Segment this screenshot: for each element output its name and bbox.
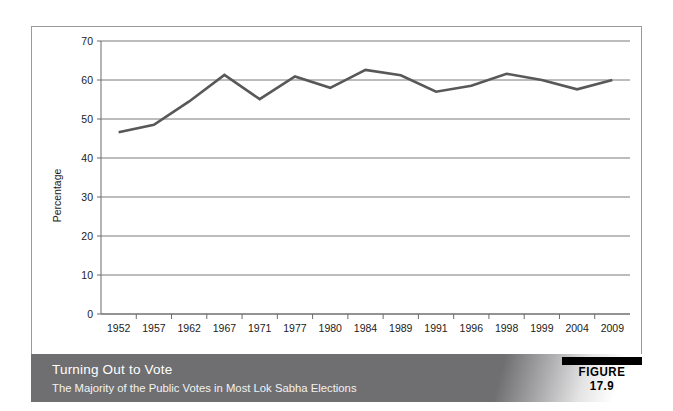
y-axis-tick-labels: 010203040506070 — [81, 35, 93, 320]
y-tick-label: 40 — [81, 152, 93, 164]
caption-band: Turning Out to Vote The Majority of the … — [31, 354, 642, 402]
x-tick-label: 1984 — [354, 322, 378, 334]
x-tick-label: 1957 — [142, 322, 166, 334]
turnout-series-line — [119, 70, 613, 132]
figure-number-badge: FIGURE 17.9 — [562, 357, 642, 383]
y-axis-ticks-group — [97, 41, 101, 314]
x-axis-ticks-group — [136, 314, 594, 319]
x-tick-label: 1977 — [283, 322, 307, 334]
x-tick-label: 1962 — [177, 322, 201, 334]
figure-container: 010203040506070 195219571962196719711977… — [0, 0, 673, 411]
caption-text-block: Turning Out to Vote The Majority of the … — [52, 360, 482, 397]
x-tick-label: 1989 — [389, 322, 413, 334]
x-tick-label: 1952 — [107, 322, 131, 334]
x-tick-label: 1999 — [530, 322, 554, 334]
x-tick-label: 1998 — [495, 322, 519, 334]
y-tick-label: 50 — [81, 113, 93, 125]
caption-title: Turning Out to Vote — [52, 360, 482, 379]
x-tick-label: 1991 — [424, 322, 448, 334]
x-axis-title: Year — [355, 344, 377, 346]
x-tick-label: 2004 — [565, 322, 589, 334]
figure-badge-bar — [562, 357, 642, 365]
y-axis-title: Percentage — [51, 168, 63, 222]
x-tick-label: 1971 — [248, 322, 272, 334]
figure-badge-label: FIGURE 17.9 — [565, 365, 639, 393]
x-tick-label: 1980 — [319, 322, 343, 334]
y-tick-label: 30 — [81, 191, 93, 203]
caption-subtitle: The Majority of the Public Votes in Most… — [52, 380, 482, 397]
y-tick-label: 10 — [81, 269, 93, 281]
y-tick-label: 70 — [81, 35, 93, 47]
y-tick-label: 0 — [87, 308, 93, 320]
x-tick-label: 1967 — [213, 322, 237, 334]
y-tick-label: 60 — [81, 74, 93, 86]
chart-svg: 010203040506070 195219571962196719711977… — [31, 26, 642, 346]
x-axis-tick-labels: 1952195719621967197119771980198419891991… — [107, 322, 624, 334]
x-tick-label: 1996 — [460, 322, 484, 334]
line-chart: 010203040506070 195219571962196719711977… — [31, 26, 642, 346]
x-tick-label: 2009 — [601, 322, 625, 334]
y-tick-label: 20 — [81, 230, 93, 242]
